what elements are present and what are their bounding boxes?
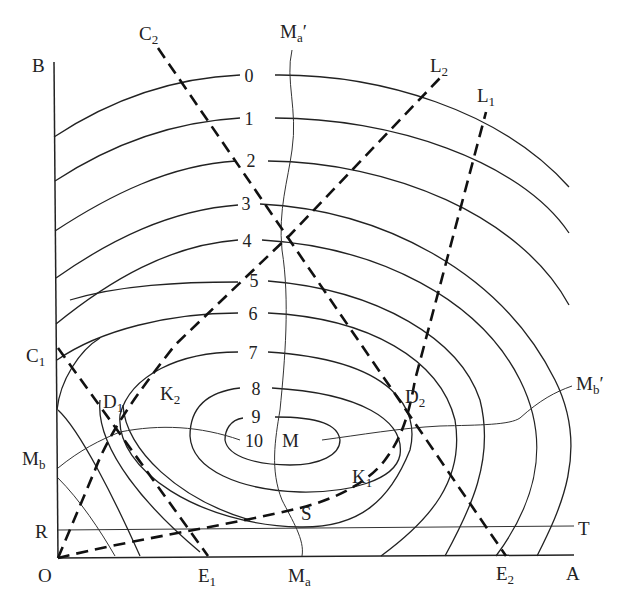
lower-left-arcs bbox=[57, 338, 250, 556]
inner-contours bbox=[120, 352, 412, 527]
contour-label-9: 9 bbox=[252, 407, 261, 427]
contour-label-7: 7 bbox=[249, 343, 258, 363]
contour-label-0: 0 bbox=[245, 66, 254, 86]
contour-1 bbox=[55, 118, 569, 233]
label-Ma: Ma bbox=[288, 565, 311, 589]
dashed-line-O-S-K1-L1 bbox=[58, 112, 486, 558]
contour-label-3: 3 bbox=[242, 194, 251, 214]
outer-contours bbox=[54, 75, 571, 556]
label-O: O bbox=[38, 565, 52, 586]
label-E2: E2 bbox=[496, 563, 514, 587]
ridge-lines bbox=[58, 50, 572, 556]
contour-7 bbox=[120, 352, 412, 527]
label-M: M bbox=[282, 430, 299, 451]
label-L1: L1 bbox=[477, 85, 495, 109]
ridge-Ma bbox=[275, 50, 303, 556]
contour-labels: 0 1 2 3 4 5 6 7 8 9 10 bbox=[241, 62, 263, 451]
contour-label-8: 8 bbox=[252, 379, 261, 399]
contour-3 bbox=[56, 204, 571, 556]
label-A: A bbox=[566, 563, 580, 584]
dashed-line-C2-E2 bbox=[158, 48, 506, 556]
label-K1: K1 bbox=[352, 466, 372, 490]
contour-label-4: 4 bbox=[243, 231, 252, 251]
contour-5 bbox=[70, 281, 485, 556]
label-B: B bbox=[32, 55, 45, 76]
contour-label-6: 6 bbox=[249, 304, 258, 324]
contour-arc-b bbox=[58, 478, 115, 556]
label-K2: K2 bbox=[160, 383, 180, 407]
label-Mb-prime: Mb′ bbox=[576, 373, 604, 397]
contour-label-1: 1 bbox=[245, 109, 254, 129]
contour-label-2: 2 bbox=[247, 151, 256, 171]
label-S: S bbox=[301, 503, 312, 524]
label-L2: L2 bbox=[430, 55, 448, 79]
dashed-lines bbox=[58, 48, 506, 558]
label-E1: E1 bbox=[198, 565, 216, 589]
label-R: R bbox=[35, 521, 48, 542]
label-C1: C1 bbox=[26, 345, 45, 369]
label-D2: D2 bbox=[405, 386, 425, 410]
contour-arc-a bbox=[58, 410, 140, 556]
label-C2: C2 bbox=[139, 23, 158, 47]
label-T: T bbox=[578, 518, 590, 539]
label-Mb: Mb bbox=[22, 448, 45, 472]
contour-label-5: 5 bbox=[250, 271, 259, 291]
contour-0 bbox=[54, 75, 569, 187]
contour-diagram: 0 1 2 3 4 5 6 7 8 9 10 B O A R T S M C2 … bbox=[0, 0, 631, 604]
label-D1: D1 bbox=[103, 391, 123, 415]
contour-label-10: 10 bbox=[245, 431, 263, 451]
label-Ma-prime: Ma′ bbox=[280, 21, 307, 45]
